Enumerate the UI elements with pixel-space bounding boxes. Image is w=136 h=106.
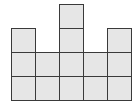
unit-square [11,28,36,53]
unit-square [107,52,132,77]
unit-square [11,76,36,101]
unit-square [83,76,108,101]
unit-square [107,76,132,101]
unit-square [35,76,60,101]
block-figure [0,0,136,106]
unit-square [107,28,132,53]
unit-square [59,4,84,29]
unit-square [11,52,36,77]
unit-square [59,28,84,53]
unit-square [59,52,84,77]
unit-square [35,52,60,77]
unit-square [59,76,84,101]
unit-square [83,52,108,77]
